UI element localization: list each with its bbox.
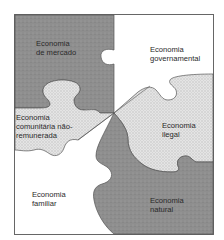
label-line: familiar (32, 199, 66, 208)
label-line: natural (150, 205, 184, 214)
label-line: Economia (162, 121, 196, 130)
label-line: Economia (36, 39, 76, 48)
label-line: governamental (150, 54, 200, 63)
label-ilegal: Economia ilegal (162, 121, 196, 139)
label-line: de mercado (36, 48, 76, 57)
label-line: comunitária não- (16, 122, 73, 131)
label-governamental: Economia governamental (150, 45, 200, 63)
label-line: Economia (150, 45, 200, 54)
label-line: Economia (16, 113, 73, 122)
label-line: remunerada (16, 131, 73, 140)
label-natural: Economia natural (150, 196, 184, 214)
label-line: Economia (32, 190, 66, 199)
label-mercado: Economia de mercado (36, 39, 76, 57)
label-line: ilegal (162, 130, 196, 139)
label-familiar: Economia familiar (32, 190, 66, 208)
label-line: Economia (150, 196, 184, 205)
label-comunitaria: Economia comunitária não- remunerada (16, 113, 73, 140)
